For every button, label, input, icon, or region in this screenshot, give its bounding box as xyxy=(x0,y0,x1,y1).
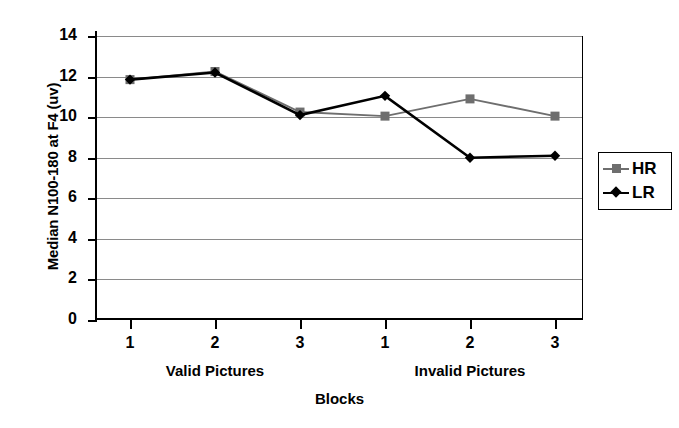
group-label-invalid: Invalid Pictures xyxy=(370,362,570,379)
legend-marker-hr-icon xyxy=(603,162,629,176)
y-axis-tick-label: 14 xyxy=(37,26,77,44)
x-axis-tick-mark xyxy=(385,320,387,329)
x-axis-tick-mark xyxy=(300,320,302,329)
y-axis-tick-label: 0 xyxy=(37,310,77,328)
data-point-lr-6 xyxy=(550,150,560,160)
x-axis-tick-mark xyxy=(215,320,217,329)
chart-legend: HRLR xyxy=(598,152,672,210)
y-axis-tick-label: 8 xyxy=(37,148,77,166)
group-label-valid: Valid Pictures xyxy=(115,362,315,379)
legend-entry-hr: HR xyxy=(603,157,671,181)
x-axis-tick-mark xyxy=(130,320,132,329)
x-axis-tick-label: 2 xyxy=(195,334,235,352)
x-axis-tick-label: 2 xyxy=(450,334,490,352)
x-axis-tick-mark xyxy=(555,320,557,329)
y-axis-tick-label: 12 xyxy=(37,67,77,85)
series-line-lr xyxy=(130,73,555,158)
y-axis-tick-label: 6 xyxy=(37,188,77,206)
y-axis-tick-label: 4 xyxy=(37,229,77,247)
legend-label-hr: HR xyxy=(629,159,657,179)
x-axis-tick-label: 3 xyxy=(535,334,575,352)
x-axis-tick-label: 1 xyxy=(110,334,150,352)
legend-marker-lr-icon xyxy=(603,186,629,200)
x-axis-title: Blocks xyxy=(0,390,679,407)
x-axis-tick-label: 3 xyxy=(280,334,320,352)
data-point-hr-5 xyxy=(466,94,475,103)
legend-label-lr: LR xyxy=(629,183,655,203)
y-axis-tick-label: 2 xyxy=(37,269,77,287)
series-line-hr xyxy=(130,72,555,117)
chart-figure: Median N100-180 at F4 (uv) 14121086420 1… xyxy=(0,0,679,428)
plot-area xyxy=(95,36,583,320)
x-axis-tick-label: 1 xyxy=(365,334,405,352)
series-lr xyxy=(125,67,560,163)
y-axis-tick-label: 10 xyxy=(37,107,77,125)
data-point-hr-6 xyxy=(551,112,560,121)
legend-entry-lr: LR xyxy=(603,181,671,205)
series-layer xyxy=(95,36,583,320)
data-point-hr-4 xyxy=(381,112,390,121)
x-axis-tick-mark xyxy=(470,320,472,329)
